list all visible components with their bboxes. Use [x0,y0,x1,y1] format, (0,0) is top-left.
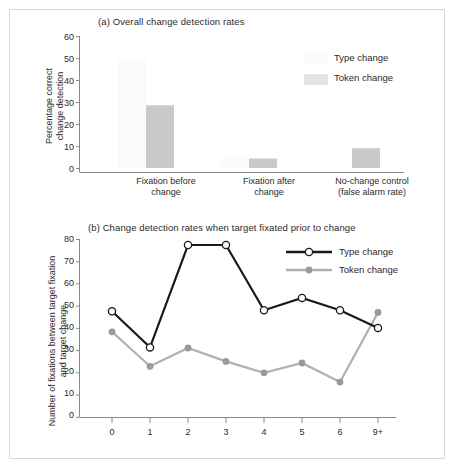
marker-type-change-0 [108,308,115,315]
panel-b-ytick-70: 70 [52,256,74,266]
panel-a-xcat-fixation-before-line2: change [151,187,181,197]
panel-b-legend-label-type-change: Type change [339,246,393,257]
panel-a-legend-label-type-change: Type change [334,52,388,63]
panel-a-ytick-60: 60 [52,32,74,42]
panel-b-ytick-40: 40 [52,322,74,332]
panel-a-title: (a) Overall change detection rates [98,16,245,27]
marker-type-change-1 [146,344,153,351]
panel-b-xtick-6: 6 [320,427,360,438]
panel-a: (a) Overall change detection rates Perce… [0,0,454,210]
panel-b-ytick-30: 30 [52,344,74,354]
panel-a-legend-label-token-change: Token change [334,72,393,83]
panel-a-xcat-no-change-control-line2: (false alarm rate) [338,187,406,197]
marker-token-change-0 [109,328,116,335]
bar-token-fixation-after [249,159,277,169]
panel-a-xcat-fixation-after: Fixation after change [214,176,324,198]
marker-type-change-5 [298,294,305,301]
panel-a-xcat-fixation-before: Fixation before change [111,176,221,198]
marker-token-change-6 [337,379,344,386]
bar-type-fixation-before [118,58,146,168]
marker-token-change-1 [147,363,154,370]
panel-a-xcat-fixation-before-line1: Fixation before [136,176,196,186]
panel-b-ytick-20: 20 [52,366,74,376]
panel-a-ytick-0: 0 [52,164,74,174]
panel-b-ytick-0: 0 [52,410,74,420]
panel-a-ytick-30: 30 [52,98,74,108]
panel-b-xtick-1: 1 [130,427,170,438]
panel-a-xcat-no-change-control-line1: No-change control [335,176,409,186]
marker-token-change-7 [375,309,382,316]
panel-a-legend-swatch-type-change [304,54,328,65]
marker-type-change-6 [336,307,343,314]
panel-a-xcat-fixation-after-line2: change [254,187,284,197]
panel-b-xtick-0: 0 [92,427,132,438]
bar-token-no-change-control [352,148,380,168]
panel-a-ytick-10: 10 [52,142,74,152]
panel-b-xtick-2: 2 [168,427,208,438]
panel-b-ytick-60: 60 [52,278,74,288]
panel-a-ytick-40: 40 [52,76,74,86]
panel-b-ytick-10: 10 [52,388,74,398]
panel-a-xcat-fixation-after-line1: Fixation after [243,176,295,186]
panel-a-xcat-no-change-control: No-change control (false alarm rate) [312,176,432,198]
marker-token-change-3 [223,358,230,365]
panel-b-ytick-50: 50 [52,300,74,310]
bar-token-fixation-before [146,105,174,168]
panel-a-ytick-50: 50 [52,54,74,64]
figure-container: (a) Overall change detection rates Perce… [0,0,454,468]
panel-b-legend-marker-token-change [306,267,313,274]
marker-token-change-4 [261,369,268,376]
marker-token-change-5 [299,360,306,367]
marker-token-change-2 [185,345,192,352]
panel-a-ytick-20: 20 [52,120,74,130]
panel-b-title: (b) Change detection rates when target f… [88,222,356,233]
series-line-type-change [112,245,378,347]
panel-b-xtick-9plus: 9+ [358,427,398,438]
marker-type-change-3 [222,241,229,248]
panel-b-legend-label-token-change: Token change [339,264,398,275]
panel-b: (b) Change detection rates when target f… [0,205,454,468]
panel-b-xtick-3: 3 [206,427,246,438]
panel-b-legend-marker-type-change [305,248,312,255]
panel-b-ytick-80: 80 [52,234,74,244]
marker-type-change-7 [374,324,381,331]
panel-a-legend-swatch-token-change [304,74,328,85]
marker-type-change-2 [184,241,191,248]
panel-b-xtick-4: 4 [244,427,284,438]
panel-b-xtick-5: 5 [282,427,322,438]
bar-type-fixation-after [221,157,249,168]
marker-type-change-4 [260,307,267,314]
